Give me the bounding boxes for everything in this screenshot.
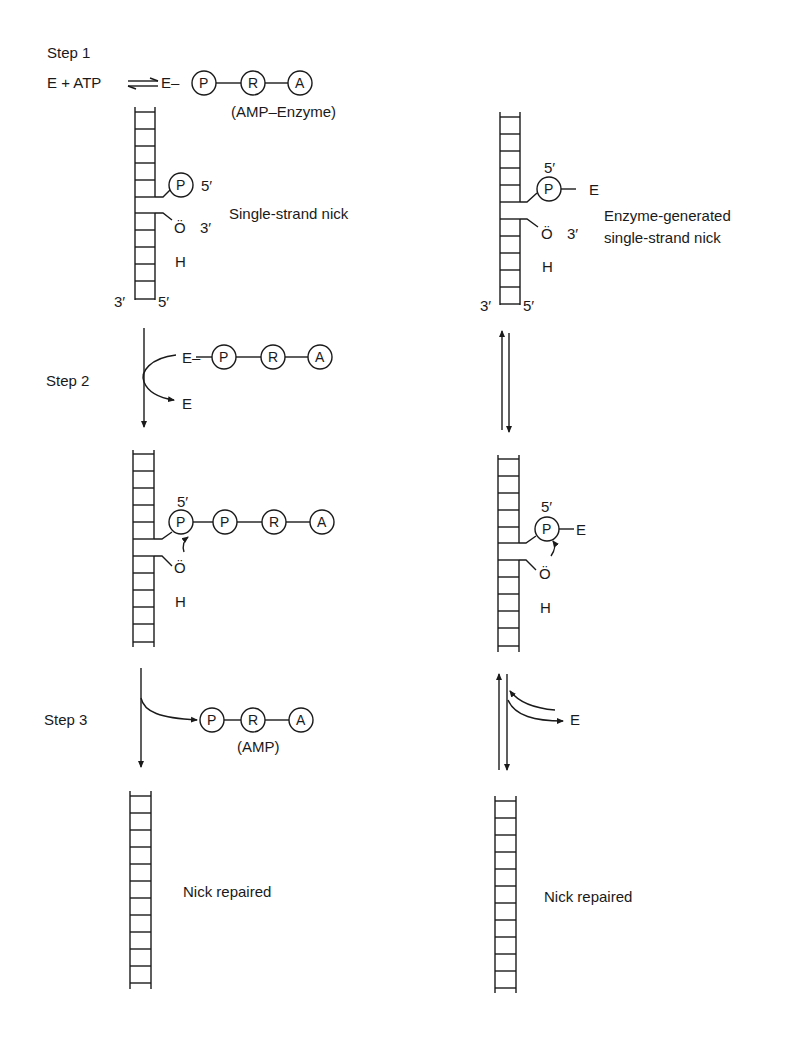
five-prime-label: 5′ [541,499,552,514]
bottom-five-prime: 5′ [523,298,534,313]
chain-p: P [176,515,185,529]
chain-p: P [199,76,208,90]
dna-ladder-right-repaired [495,796,516,993]
step-2-label: Step 2 [46,373,89,388]
chain-a: A [315,350,324,364]
phosphate-label: P [176,178,185,192]
oxygen-label: Ö [541,226,553,241]
nick-label: Single-strand nick [229,206,348,221]
nick-repaired-label-left: Nick repaired [183,884,271,899]
step-1-label: Step 1 [47,45,90,60]
enzyme-label: E [576,522,586,537]
chain-r: R [248,713,258,727]
oxygen-label: Ö [174,560,186,575]
chain-p: P [219,350,228,364]
five-prime-label: 5′ [177,494,188,509]
amp-enzyme-caption: (AMP–Enzyme) [231,104,336,119]
five-prime-label: 5′ [544,160,555,175]
five-prime-label: 5′ [201,178,212,193]
nick-repaired-label-right: Nick repaired [544,889,632,904]
dna-ladder-right-2 [498,455,536,652]
enzyme-label: E [570,712,580,727]
amp-caption: (AMP) [237,739,280,754]
step-3-label: Step 3 [44,712,87,727]
hydrogen-label: H [542,259,553,274]
nick-label-line2: single-strand nick [604,230,721,245]
bottom-three-prime: 3′ [114,294,125,309]
enzyme-in-label: E– [182,350,200,365]
hydrogen-label: H [540,600,551,615]
dna-ladder-left-1 [135,107,172,300]
chain-p: P [207,713,216,727]
chain-a: A [317,515,326,529]
chain-a: A [295,76,304,90]
equation-left: E + ATP [47,75,101,90]
phosphate-label: P [544,182,553,196]
hydrogen-label: H [175,594,186,609]
chain-r: R [269,515,279,529]
oxygen-label: Ö [539,566,551,581]
enzyme-label: E [589,182,599,197]
phosphate-label: P [542,522,551,536]
equilibrium-arrows-icon [128,78,158,89]
dna-ladder-left-repaired [130,791,151,989]
diagram-canvas [0,0,787,1039]
bottom-five-prime: 5′ [158,294,169,309]
three-prime-label: 3′ [200,220,211,235]
bottom-three-prime: 3′ [480,298,491,313]
dna-ladder-left-2 [133,450,172,647]
chain-r: R [248,76,258,90]
dna-ladder-right-1 [500,112,538,305]
three-prime-label: 3′ [567,226,578,241]
hydrogen-label: H [175,254,186,269]
enzyme-label: E– [161,75,179,90]
chain-r: R [268,350,278,364]
chain-a: A [296,713,305,727]
oxygen-label: Ö [174,220,186,235]
enzyme-out-label: E [182,396,192,411]
nick-label-line1: Enzyme-generated [604,208,731,223]
chain-p: P [220,515,229,529]
